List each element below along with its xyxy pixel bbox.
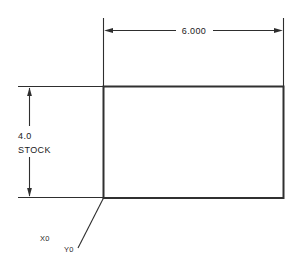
width-arrowhead-left-icon	[104, 28, 113, 33]
width-dimension-group: 6.000	[104, 18, 284, 88]
cad-drawing-svg: 6.000 4.0 STOCK X0 Y0	[0, 0, 308, 266]
height-dimension-label-value: 4.0	[18, 131, 32, 141]
origin-leader-line	[78, 198, 104, 248]
height-dimension-label-note: STOCK	[18, 145, 51, 155]
height-arrowhead-bottom-icon	[27, 188, 32, 197]
origin-x-label: X0	[40, 234, 50, 243]
origin-y-label: Y0	[64, 245, 74, 254]
origin-marker-group: X0 Y0	[40, 198, 104, 254]
width-arrowhead-right-icon	[274, 28, 283, 33]
height-arrowhead-top-icon	[27, 88, 32, 97]
height-dimension-group: 4.0 STOCK	[18, 87, 105, 198]
stock-rectangle-outline	[104, 87, 284, 199]
width-dimension-label: 6.000	[182, 26, 207, 36]
technical-drawing-canvas: 6.000 4.0 STOCK X0 Y0	[0, 0, 308, 266]
